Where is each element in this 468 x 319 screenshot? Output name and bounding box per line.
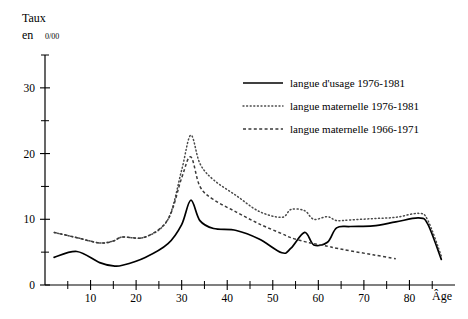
y-tick-label: 20 [24,148,36,160]
x-tick-label: 70 [358,292,370,304]
x-axis-title: Âge [432,289,452,303]
y-tick-label: 0 [29,279,35,291]
chart-background [0,0,468,319]
legend-label-2: langue maternelle 1966-1971 [290,123,419,135]
y-tick-label: 30 [24,82,36,94]
y-axis-title-unit: 0/00 [45,32,59,41]
x-tick-label: 30 [176,292,188,304]
x-tick-label: 20 [130,292,142,304]
x-tick-label: 80 [404,292,416,304]
x-tick-label: 60 [313,292,325,304]
chart-container: Taux en 0/00 0102030 1020304050607080 Âg… [0,0,468,319]
y-axis-title-line1: Taux [22,11,46,25]
line-chart: Taux en 0/00 0102030 1020304050607080 Âg… [0,0,468,319]
x-tick-label: 40 [221,292,233,304]
x-tick-label: 10 [85,292,97,304]
y-axis-title-unit-prefix: en [22,28,33,42]
y-tick-label: 10 [24,213,36,225]
legend-label-0: langue d'usage 1976-1981 [290,77,405,89]
x-tick-label: 50 [267,292,279,304]
legend-label-1: langue maternelle 1976-1981 [290,100,419,112]
